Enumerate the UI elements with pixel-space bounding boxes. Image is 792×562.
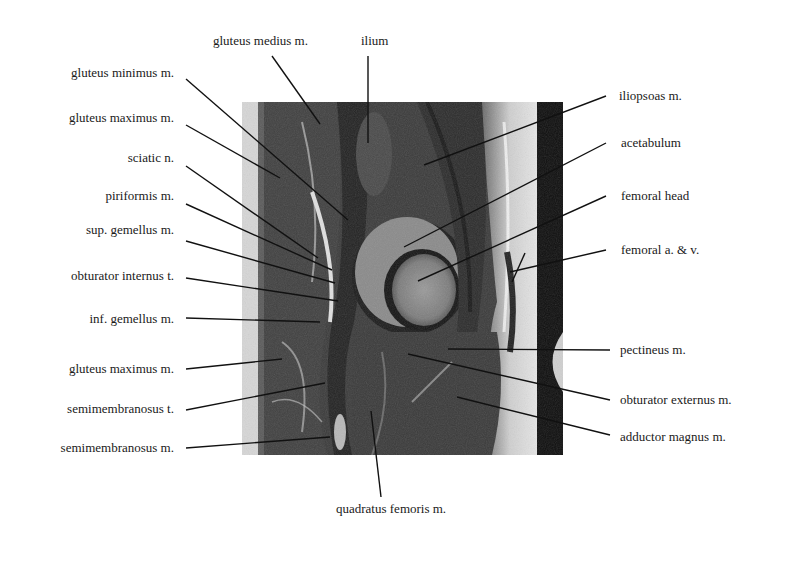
label-pectineus: pectineus m. xyxy=(620,342,686,358)
label-quadratus-femoris: quadratus femoris m. xyxy=(336,501,446,517)
label-sciatic-nerve: sciatic n. xyxy=(128,150,174,166)
label-piriformis: piriformis m. xyxy=(105,188,174,204)
label-femoral-vessels: femoral a. & v. xyxy=(621,242,699,258)
label-obturator-externus: obturator externus m. xyxy=(620,392,732,408)
label-gluteus-maximus-upper: gluteus maximus m. xyxy=(69,110,174,126)
label-sup-gemellus: sup. gemellus m. xyxy=(86,222,174,238)
label-iliopsoas: iliopsoas m. xyxy=(619,88,682,104)
mri-image xyxy=(242,102,563,455)
label-femoral-head: femoral head xyxy=(621,188,689,204)
label-gluteus-maximus-lower: gluteus maximus m. xyxy=(69,361,174,377)
label-gluteus-medius: gluteus medius m. xyxy=(213,33,308,49)
label-obturator-internus: obturator internus t. xyxy=(71,268,174,284)
anatomy-figure: gluteus minimus m. gluteus maximus m. sc… xyxy=(0,0,792,562)
label-semimembranosus-tendon: semimembranosus t. xyxy=(67,401,174,417)
label-adductor-magnus: adductor magnus m. xyxy=(620,429,726,445)
label-semimembranosus-muscle: semimembranosus m. xyxy=(61,440,174,456)
label-inf-gemellus: inf. gemellus m. xyxy=(90,311,175,327)
label-gluteus-minimus: gluteus minimus m. xyxy=(71,65,174,81)
label-ilium: ilium xyxy=(361,33,388,49)
label-acetabulum: acetabulum xyxy=(621,135,681,151)
